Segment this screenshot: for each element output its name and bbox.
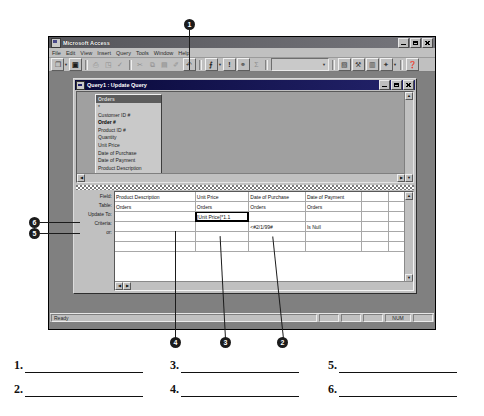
field-list-item[interactable]: Date of Payment: [98, 157, 159, 165]
answer-blank-2[interactable]: [25, 385, 143, 397]
query-minimize-button[interactable]: [379, 80, 390, 90]
cell-update-to-1[interactable]: [Unit Price]*1.1: [195, 212, 249, 222]
print-button[interactable]: ⎙: [91, 59, 102, 70]
field-list-item[interactable]: Customer ID #: [98, 112, 159, 120]
menu-help[interactable]: Help: [178, 50, 189, 56]
cell-field-3[interactable]: Date of Payment: [305, 192, 362, 202]
scroll-right-icon[interactable]: ▶: [397, 174, 405, 182]
cell-or-1[interactable]: [195, 232, 249, 242]
field-list-orders[interactable]: Orders * Customer ID # Order # Product I…: [95, 94, 162, 178]
query-window-titlebar[interactable]: Query1 : Update Query: [75, 80, 415, 90]
cell-or-4[interactable]: [362, 232, 389, 242]
cell-update-to-3[interactable]: [305, 212, 362, 222]
qbe-scroll-up-icon[interactable]: ▲: [405, 192, 413, 200]
print-preview-button[interactable]: ◳: [103, 59, 114, 70]
field-list-item[interactable]: Product Description: [98, 165, 159, 173]
cell-criteria-1[interactable]: [195, 222, 249, 232]
row-label-field: Field:: [76, 191, 114, 200]
field-list-body: * Customer ID # Order # Product ID # Qua…: [96, 103, 161, 177]
answer-blank-5[interactable]: [339, 361, 457, 373]
view-dropdown-arrow[interactable]: ▼: [64, 62, 68, 67]
status-indicator-1: [319, 314, 339, 322]
cell-criteria-4[interactable]: [362, 222, 389, 232]
new-object-dropdown-arrow[interactable]: ▼: [393, 62, 397, 67]
cell-table-4[interactable]: [362, 202, 389, 212]
build-button[interactable]: ⚒: [352, 58, 365, 71]
cell-blank-3[interactable]: [305, 242, 362, 252]
cut-button[interactable]: ✂: [135, 59, 146, 70]
answer-number-4: 4.: [170, 382, 179, 397]
answer-blank-3[interactable]: [181, 361, 299, 373]
answer-blank-4[interactable]: [181, 385, 299, 397]
scroll-left-icon[interactable]: ◀: [77, 174, 85, 182]
office-assistant-button[interactable]: ❓: [406, 58, 419, 71]
cell-blank-4[interactable]: [362, 242, 389, 252]
cell-or-3[interactable]: [305, 232, 362, 242]
cell-field-1[interactable]: Unit Price: [195, 192, 249, 202]
pane-splitter[interactable]: [76, 185, 414, 190]
menu-insert[interactable]: Insert: [97, 50, 111, 56]
cell-criteria-2[interactable]: <#2/1/99#: [249, 222, 306, 232]
field-list-item[interactable]: Date of Purchase: [98, 150, 159, 158]
cell-or-0[interactable]: [115, 232, 195, 242]
cell-table-0[interactable]: Orders: [115, 202, 195, 212]
paste-button[interactable]: ▤: [159, 59, 170, 70]
save-button[interactable]: ▣: [69, 58, 82, 71]
spelling-button[interactable]: ✓: [115, 59, 126, 70]
totals-button[interactable]: Σ: [251, 59, 262, 70]
qbe-scroll-right-icon[interactable]: ▶: [123, 282, 131, 290]
run-button[interactable]: !: [223, 58, 236, 71]
cell-blank-0[interactable]: [115, 242, 195, 252]
field-list-item[interactable]: Quantity: [98, 134, 159, 142]
cell-or-2[interactable]: [249, 232, 306, 242]
new-object-button[interactable]: ✦: [380, 58, 393, 71]
top-values-combo[interactable]: ▼: [271, 58, 329, 71]
close-icon[interactable]: [422, 38, 433, 48]
answer-blank-6[interactable]: [339, 385, 457, 397]
cell-update-to-0[interactable]: [115, 212, 195, 222]
menu-query[interactable]: Query: [116, 50, 131, 56]
query-type-dropdown-arrow[interactable]: ▼: [218, 62, 222, 67]
menu-file[interactable]: File: [52, 50, 61, 56]
field-list-item[interactable]: Order #: [98, 119, 159, 127]
cell-criteria-0[interactable]: [115, 222, 195, 232]
application-titlebar[interactable]: Microsoft Access: [49, 37, 435, 48]
cell-blank-1[interactable]: [195, 242, 249, 252]
cell-blank-2[interactable]: [249, 242, 306, 252]
menu-edit[interactable]: Edit: [66, 50, 75, 56]
cell-table-1[interactable]: Orders: [195, 202, 249, 212]
cell-field-4[interactable]: [362, 192, 389, 202]
answer-blank-1[interactable]: [25, 361, 143, 373]
minimize-button[interactable]: [398, 38, 409, 48]
database-window-button[interactable]: ▥: [366, 58, 379, 71]
menu-window[interactable]: Window: [154, 50, 174, 56]
scroll-down-icon[interactable]: ▼: [405, 174, 413, 182]
qbe-scroll-left-icon[interactable]: ◀: [115, 282, 123, 290]
field-list-item[interactable]: *: [98, 104, 159, 112]
cell-update-to-4[interactable]: [362, 212, 389, 222]
qbe-vertical-scrollbar[interactable]: ▲ ▼: [404, 192, 413, 282]
cell-criteria-3[interactable]: Is Null: [305, 222, 362, 232]
cell-table-2[interactable]: Orders: [249, 202, 306, 212]
cell-field-2[interactable]: Date of Purchase: [249, 192, 306, 202]
qbe-horizontal-scrollbar[interactable]: ◀ ▶: [115, 281, 413, 290]
table-pane-horizontal-scrollbar[interactable]: ◀ ▶: [77, 173, 405, 182]
format-painter-button[interactable]: ✐: [171, 59, 182, 70]
scroll-up-icon[interactable]: ▲: [405, 92, 413, 100]
cell-update-to-2[interactable]: [249, 212, 306, 222]
table-pane-vertical-scrollbar[interactable]: ▲ ▼: [404, 92, 413, 182]
field-list-item[interactable]: Product ID #: [98, 127, 159, 135]
menu-view[interactable]: View: [80, 50, 92, 56]
cell-field-0[interactable]: Product Description: [115, 192, 195, 202]
query-close-icon[interactable]: [403, 80, 414, 90]
copy-button[interactable]: ⧉: [147, 59, 158, 70]
query-restore-button[interactable]: [391, 80, 402, 90]
properties-button[interactable]: ▧: [338, 58, 351, 71]
field-list-item[interactable]: Unit Price: [98, 142, 159, 150]
query-type-button[interactable]: ⨍: [205, 58, 218, 71]
view-button[interactable]: ❐: [51, 58, 64, 71]
restore-button[interactable]: [410, 38, 421, 48]
show-table-button[interactable]: ⚭: [237, 58, 250, 71]
cell-table-3[interactable]: Orders: [305, 202, 362, 212]
menu-tools[interactable]: Tools: [136, 50, 149, 56]
